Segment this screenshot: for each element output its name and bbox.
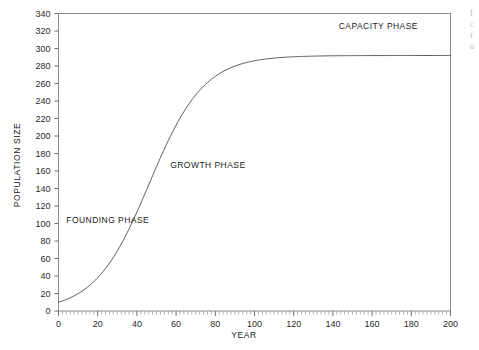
x-tick-label: 120 <box>286 319 301 329</box>
edge-text-line-3: f <box>470 31 473 40</box>
y-tick-label: 40 <box>40 271 50 281</box>
y-tick-label: 100 <box>35 219 50 229</box>
y-tick-label: 140 <box>35 184 50 194</box>
x-tick-label: 200 <box>443 319 458 329</box>
x-tick-label: 20 <box>93 319 103 329</box>
y-tick-label: 240 <box>35 96 50 106</box>
plot-frame <box>59 14 451 312</box>
y-axis-title: POPULATION SIZE <box>12 123 22 207</box>
x-axis-title: YEAR <box>231 330 257 340</box>
x-tick-label: 0 <box>56 319 61 329</box>
edge-text-line-4: u <box>470 42 474 51</box>
x-tick-label: 60 <box>171 319 181 329</box>
y-tick-label: 160 <box>35 166 50 176</box>
edge-text-line-2: c <box>470 20 474 29</box>
y-tick-label: 300 <box>35 44 50 54</box>
chart-figure: 0204060801001201401601802002202402602803… <box>0 0 479 350</box>
x-tick-label: 180 <box>404 319 419 329</box>
logistic-growth-curve <box>59 56 451 303</box>
y-tick-label: 260 <box>35 79 50 89</box>
y-tick-label: 320 <box>35 26 50 36</box>
x-axis-tick-labels: 020406080100120140160180200 <box>56 319 458 329</box>
x-tick-label: 40 <box>132 319 142 329</box>
y-axis-tick-labels: 0204060801001201401601802002202402602803… <box>35 9 50 317</box>
edge-text-line-1: I <box>470 9 473 18</box>
phase-label-growth: GROWTH PHASE <box>170 160 245 170</box>
y-tick-label: 180 <box>35 149 50 159</box>
y-tick-label: 60 <box>40 254 50 264</box>
phase-label-founding: FOUNDING PHASE <box>66 215 149 225</box>
y-tick-label: 340 <box>35 9 50 19</box>
y-tick-label: 0 <box>45 306 50 316</box>
y-tick-label: 200 <box>35 131 50 141</box>
y-tick-label: 220 <box>35 114 50 124</box>
x-tick-label: 140 <box>325 319 340 329</box>
y-axis-ticks <box>55 14 59 312</box>
y-tick-label: 120 <box>35 201 50 211</box>
phase-annotations: FOUNDING PHASEGROWTH PHASECAPACITY PHASE <box>66 21 418 224</box>
population-growth-chart: 0204060801001201401601802002202402602803… <box>0 0 479 350</box>
x-tick-label: 100 <box>247 319 262 329</box>
y-tick-label: 20 <box>40 289 50 299</box>
y-tick-label: 80 <box>40 236 50 246</box>
x-tick-label: 160 <box>365 319 380 329</box>
phase-label-capacity: CAPACITY PHASE <box>339 21 418 31</box>
x-tick-label: 80 <box>210 319 220 329</box>
y-tick-label: 280 <box>35 61 50 71</box>
